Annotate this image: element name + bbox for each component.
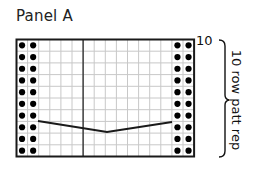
row-number-label: 10 <box>196 33 213 48</box>
chart-gridlines <box>17 40 195 157</box>
repeat-label: 10 row patt rep <box>229 50 244 150</box>
repeat-brace-icon <box>219 40 229 157</box>
